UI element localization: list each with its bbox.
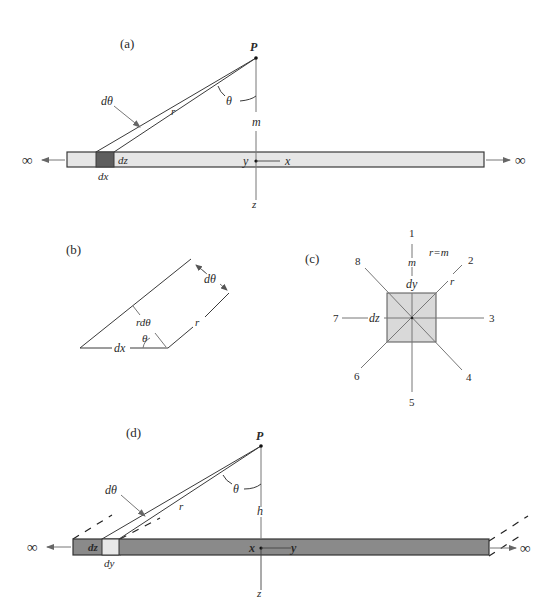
panel-b: (b) dx r dθ rdθ θ — [66, 242, 229, 355]
ray-r-right-d — [119, 446, 261, 539]
theta-label: θ — [226, 94, 232, 108]
ray-lower-seg2 — [205, 293, 229, 317]
dtheta-label-b: dθ — [204, 272, 216, 286]
theta-arc-d — [244, 484, 261, 489]
dtheta-label: dθ — [101, 94, 113, 108]
dx-label: dx — [98, 170, 109, 182]
direction-4-label: 4 — [466, 371, 472, 383]
y-axis-label-d: y — [289, 541, 297, 555]
dz-label-d: dz — [88, 541, 99, 553]
x-axis-label: x — [284, 154, 291, 168]
z-axis-label: z — [251, 198, 257, 210]
theta-arc-left-tick-d — [223, 475, 232, 484]
dtheta-pointer-arrow — [114, 106, 140, 127]
left-infinity-label: ∞ — [22, 152, 33, 168]
dz-label: dz — [118, 154, 129, 166]
x-axis-label-d: x — [248, 541, 255, 555]
center-dot — [411, 317, 414, 320]
r-label-b: r — [195, 316, 200, 328]
ray-r-left — [96, 58, 256, 152]
element-dy — [102, 539, 119, 555]
direction-7-label: 7 — [333, 312, 339, 324]
point-p-label-d: P — [256, 429, 264, 443]
perpendicular-top — [133, 306, 140, 315]
left-infinity-label-d: ∞ — [27, 539, 38, 555]
right-infinity-label-d: ∞ — [520, 540, 531, 556]
ray-lower-seg1 — [168, 327, 193, 348]
r-label-d: r — [179, 500, 184, 512]
h-label: h — [257, 504, 263, 518]
panel-a-label: (a) — [120, 36, 134, 51]
direction-6-label: 6 — [354, 370, 360, 382]
infinite-strip — [67, 152, 484, 167]
point-p-dot-d — [259, 444, 263, 448]
panel-b-label: (b) — [66, 242, 81, 257]
theta-label-b: θ — [142, 332, 148, 344]
dash-right-bottom — [489, 536, 520, 556]
dash-mid-top — [120, 518, 160, 539]
panel-d-label: (d) — [126, 425, 141, 440]
direction-2-label: 2 — [468, 254, 474, 266]
panel-d: (d) P θ dθ r h dz dy x y — [27, 425, 531, 599]
figure-canvas: (a) P θ dθ r m dz dx y x z — [0, 0, 558, 609]
point-p-label: P — [250, 40, 258, 54]
direction-5-label: 5 — [409, 396, 415, 408]
panel-c-label: (c) — [305, 251, 319, 266]
m-label-c: m — [408, 256, 416, 268]
r-label-c: r — [450, 275, 455, 287]
theta-label-d: θ — [233, 482, 239, 496]
direction-8-label: 8 — [355, 255, 361, 267]
panel-c: (c) 1 2 3 4 5 6 7 8 r=m m dy dz r — [305, 227, 495, 408]
dy-label-d: dy — [104, 557, 115, 569]
dash-left-top — [73, 515, 112, 539]
panel-a: (a) P θ dθ r m dz dx y x z — [22, 36, 526, 210]
dy-label-c: dy — [406, 277, 418, 291]
perpendicular-bottom — [155, 333, 166, 347]
z-axis-label-d: z — [256, 587, 262, 599]
infinite-slab — [73, 539, 489, 555]
dx-label-b: dx — [114, 341, 126, 355]
ray-r-right — [114, 58, 256, 152]
direction-2-line-upper — [453, 265, 462, 274]
direction-1-label: 1 — [409, 227, 415, 239]
r-label: r — [171, 105, 176, 117]
right-infinity-label: ∞ — [515, 152, 526, 168]
equation-r-equals-m: r=m — [429, 246, 449, 258]
point-p-dot — [254, 56, 258, 60]
dash-right-top — [489, 516, 528, 541]
ray-upper — [80, 259, 191, 348]
element-dx — [96, 152, 114, 167]
m-label: m — [252, 115, 261, 129]
dtheta-pointer-arrow-d — [121, 495, 145, 516]
theta-arc-left-tick — [218, 86, 225, 96]
dz-label-c: dz — [369, 311, 380, 325]
y-axis-label: y — [242, 154, 249, 168]
direction-3-label: 3 — [489, 312, 495, 324]
theta-arc — [240, 96, 256, 101]
dtheta-label-d: dθ — [105, 483, 117, 497]
dtheta-arrow-right — [220, 284, 227, 290]
rdtheta-label: rdθ — [136, 316, 151, 328]
